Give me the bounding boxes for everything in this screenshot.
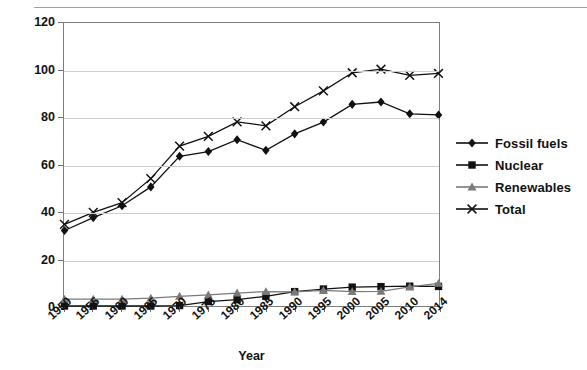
data-point-diamond — [348, 100, 356, 109]
gridline — [64, 213, 439, 214]
y-tick-label: 20 — [15, 253, 55, 267]
y-tick-mark — [58, 260, 63, 261]
y-tick-label: 120 — [15, 15, 55, 29]
data-point-diamond — [205, 147, 213, 156]
y-tick-label: 60 — [15, 158, 55, 172]
y-tick-label: 100 — [15, 63, 55, 77]
data-point-x — [175, 142, 184, 151]
data-point-x — [204, 132, 213, 141]
gridline — [64, 71, 439, 72]
legend-item-fossil-fuels[interactable]: Fossil fuels — [455, 132, 583, 154]
legend-marker-triangle-icon — [455, 180, 489, 194]
series-canvas — [64, 23, 439, 306]
gridline — [64, 261, 439, 262]
chart-figure: Quadrillion Btus 020406080100120 1950195… — [0, 0, 587, 370]
data-point-square — [468, 161, 475, 168]
y-tick-mark — [58, 70, 63, 71]
chart-legend: Fossil fuelsNuclearRenewablesTotal — [455, 132, 583, 220]
legend-item-total[interactable]: Total — [455, 198, 583, 220]
data-point-diamond — [233, 135, 241, 144]
x-axis-title: Year — [63, 349, 440, 363]
data-point-diamond — [262, 146, 270, 155]
y-tick-mark — [58, 212, 63, 213]
data-point-x — [146, 174, 155, 183]
data-point-diamond — [291, 129, 299, 138]
legend-label: Renewables — [495, 180, 571, 195]
legend-label: Total — [495, 202, 526, 217]
data-point-x — [319, 87, 328, 96]
legend-marker-square-icon — [455, 158, 489, 172]
data-point-x — [290, 102, 299, 111]
series-total — [60, 65, 443, 229]
legend-marker-diamond-icon — [455, 136, 489, 150]
x-tick-label: 1950 — [45, 294, 74, 322]
gridline — [64, 118, 439, 119]
plot-area — [63, 22, 440, 307]
legend-marker-x-icon — [455, 202, 489, 216]
data-point-diamond — [468, 138, 476, 147]
data-point-diamond — [406, 109, 414, 118]
data-point-diamond — [377, 97, 385, 106]
legend-item-nuclear[interactable]: Nuclear — [455, 154, 583, 176]
y-tick-mark — [58, 165, 63, 166]
y-tick-label: 80 — [15, 110, 55, 124]
y-tick-mark — [58, 117, 63, 118]
legend-label: Fossil fuels — [495, 136, 568, 151]
y-tick-label: 40 — [15, 205, 55, 219]
gridline — [64, 166, 439, 167]
y-tick-mark — [58, 22, 63, 23]
legend-item-renewables[interactable]: Renewables — [455, 176, 583, 198]
legend-label: Nuclear — [495, 158, 543, 173]
